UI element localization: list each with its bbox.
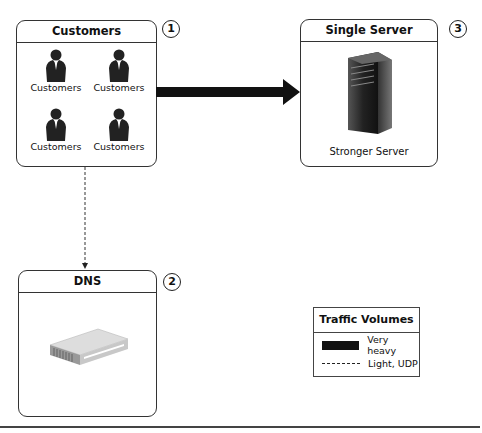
customer-label: Customers [89, 82, 149, 93]
dns-box-title: DNS [19, 271, 156, 293]
server-box: Single Server Stronger Server [300, 19, 438, 167]
legend-title: Traffic Volumes [314, 308, 419, 333]
customer-node: Customers [89, 107, 149, 152]
step-badge-3: 3 [449, 20, 467, 38]
heavy-traffic-arrow [156, 76, 302, 108]
light-udp-connector [80, 167, 90, 271]
heavy-line-swatch [322, 341, 359, 350]
traffic-legend: Traffic Volumes Very heavy Light, UDP [313, 307, 420, 377]
dashed-line-swatch [322, 363, 360, 364]
step-badge-2: 2 [163, 273, 181, 291]
step-badge-1: 1 [162, 20, 180, 38]
legend-item-light-udp: Light, UDP [314, 354, 419, 372]
customer-label: Customers [89, 141, 149, 152]
person-silhouette-icon [106, 107, 132, 141]
network-appliance-icon [48, 325, 130, 369]
customers-box-title: Customers [17, 21, 156, 43]
server-box-title: Single Server [301, 20, 437, 42]
tower-server-icon [344, 50, 396, 138]
customer-label: Customers [26, 82, 86, 93]
bottom-divider [0, 426, 480, 428]
person-silhouette-icon [43, 48, 69, 82]
customer-node: Customers [26, 107, 86, 152]
legend-label: Very heavy [367, 334, 419, 356]
legend-label: Light, UDP [368, 358, 418, 369]
customers-box: Customers Customers Customers Customers … [16, 20, 157, 167]
customer-node: Customers [26, 48, 86, 93]
person-silhouette-icon [43, 107, 69, 141]
server-label: Stronger Server [301, 146, 437, 157]
dns-box: DNS [18, 270, 157, 417]
customer-node: Customers [89, 48, 149, 93]
legend-item-very-heavy: Very heavy [314, 336, 419, 354]
customer-label: Customers [26, 141, 86, 152]
person-silhouette-icon [106, 48, 132, 82]
